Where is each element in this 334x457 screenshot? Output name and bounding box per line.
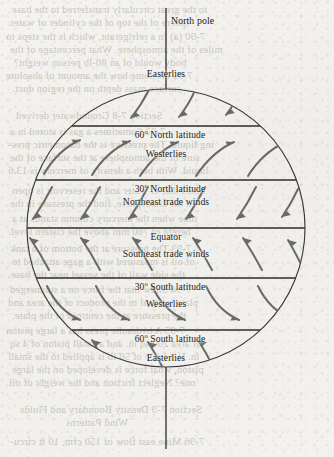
figure-page: to the great circularly transferred to t… <box>0 0 334 457</box>
belt-label-westerlies-south: Westerlies <box>146 298 187 309</box>
belt-label-westerlies-north: Westerlies <box>146 148 187 159</box>
belt-label-polar-easterlies-north: Easterlies <box>147 68 185 79</box>
belt-label-polar-easterlies-south: Easterlies <box>147 352 185 363</box>
belt-label-northeast-trades: Northeast trade winds <box>123 196 209 207</box>
belt-label-southeast-trades: Southeast trade winds <box>123 248 209 259</box>
wind-arrows-polar-easterlies-north <box>84 84 281 118</box>
north-pole-label: North pole <box>171 15 214 26</box>
latitude-label-60s: 60o South latitude <box>135 333 206 344</box>
latitude-label-30s: 30o South latitude <box>135 281 206 292</box>
latitude-label-30n: 30o North latitude <box>135 183 206 194</box>
latitude-label-60n: 60o North latitude <box>135 129 206 140</box>
latitude-label-equator: Equator <box>150 231 181 242</box>
